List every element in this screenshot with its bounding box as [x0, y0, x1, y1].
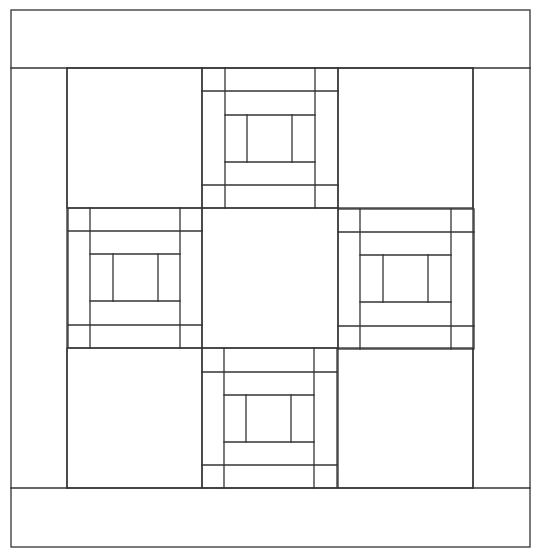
quilt-diagram — [0, 0, 540, 558]
center-square-rect — [202, 208, 338, 348]
block-outline — [202, 68, 338, 208]
center-square — [202, 208, 338, 348]
log-cabin-blocks — [68, 68, 474, 488]
block-outline — [68, 208, 202, 348]
border-bands — [11, 68, 530, 488]
log-cabin-block-left — [68, 208, 202, 348]
log-cabin-block-top — [202, 68, 338, 208]
corner-square-top-left — [67, 68, 202, 208]
block-outline — [338, 209, 474, 349]
corner-square-bottom-left — [67, 348, 202, 488]
log-cabin-block-right — [338, 209, 474, 349]
block-outline — [202, 348, 337, 488]
corner-square-bottom-right — [338, 348, 473, 488]
corner-squares — [67, 68, 473, 488]
log-cabin-block-bottom — [202, 348, 337, 488]
corner-square-top-right — [338, 68, 473, 208]
